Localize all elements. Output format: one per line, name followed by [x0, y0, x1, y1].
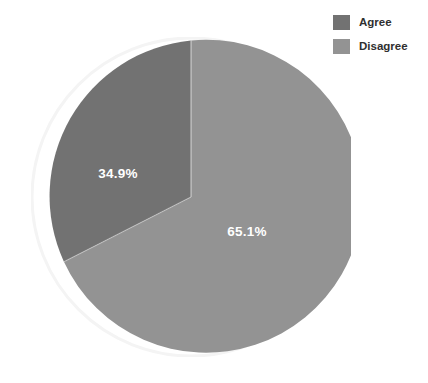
- legend-label-disagree: Disagree: [359, 39, 408, 54]
- pie-chart: 34.9% 65.1% Agree Disagree: [0, 0, 428, 383]
- legend-item-disagree[interactable]: Disagree: [333, 38, 423, 54]
- pie-label-agree: 34.9%: [98, 166, 137, 181]
- legend-swatch-agree-icon: [333, 15, 350, 30]
- pie-label-disagree: 65.1%: [227, 224, 266, 239]
- legend-swatch-disagree-icon: [333, 39, 350, 54]
- pie-svg: 34.9% 65.1%: [31, 37, 351, 357]
- legend-item-agree[interactable]: Agree: [333, 14, 423, 30]
- legend-label-agree: Agree: [359, 15, 392, 30]
- pie-graphic: 34.9% 65.1%: [31, 37, 351, 357]
- legend: Agree Disagree: [333, 14, 423, 62]
